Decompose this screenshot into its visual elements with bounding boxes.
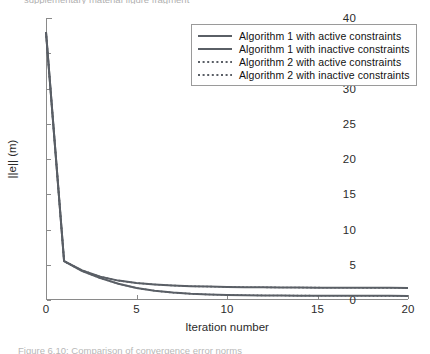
x-tick-label: 20 bbox=[401, 303, 414, 315]
clipped-caption-text: Figure 6.10: Comparison of convergence e… bbox=[18, 345, 418, 354]
y-tick-mark bbox=[47, 300, 51, 301]
legend-box: Algorithm 1 with active constraintsAlgor… bbox=[191, 24, 417, 86]
legend-label: Algorithm 2 with active constraints bbox=[239, 56, 401, 68]
legend-label: Algorithm 1 with inactive constraints bbox=[239, 43, 410, 55]
clipped-header-text: supplementary material figure fragment bbox=[24, 0, 324, 4]
legend-item: Algorithm 2 with active constraints bbox=[197, 55, 410, 68]
y-axis-label: ||e|| (m) bbox=[6, 140, 18, 179]
legend-item: Algorithm 2 with inactive constraints bbox=[197, 68, 410, 81]
x-tick-mark bbox=[408, 295, 409, 299]
legend-label: Algorithm 2 with inactive constraints bbox=[239, 69, 410, 81]
legend-item: Algorithm 1 with active constraints bbox=[197, 29, 410, 42]
legend-label: Algorithm 1 with active constraints bbox=[239, 30, 401, 42]
x-tick-label: 10 bbox=[220, 303, 233, 315]
legend-line-sample bbox=[197, 43, 233, 55]
legend-line-sample bbox=[197, 69, 233, 81]
x-tick-label: 0 bbox=[43, 303, 50, 315]
x-tick-label: 15 bbox=[311, 303, 324, 315]
x-axis-label: Iteration number bbox=[185, 321, 269, 333]
x-tick-label: 5 bbox=[133, 303, 140, 315]
legend-item: Algorithm 1 with inactive constraints bbox=[197, 42, 410, 55]
legend-line-sample bbox=[197, 56, 233, 68]
legend-line-sample bbox=[197, 30, 233, 42]
